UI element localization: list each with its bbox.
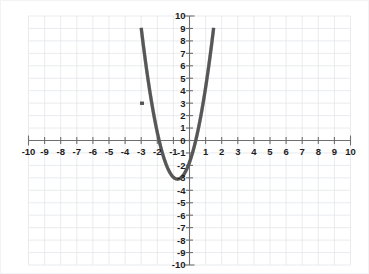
y-tick-label: -2 bbox=[177, 160, 185, 171]
x-tick-label: -10 bbox=[22, 146, 36, 157]
y-tick-label: 7 bbox=[180, 48, 185, 59]
x-tick-label: -9 bbox=[40, 146, 48, 157]
x-axis-tick-labels: -10-9-8-7-6-5-4-3-2-112345678910 bbox=[22, 146, 356, 157]
y-tick-label: 10 bbox=[175, 10, 186, 21]
x-tick-label: -8 bbox=[56, 146, 64, 157]
y-tick-label: -1 bbox=[177, 147, 186, 158]
y-tick-label: 6 bbox=[180, 60, 185, 71]
x-tick-label: -4 bbox=[121, 146, 130, 157]
y-tick-label: -5 bbox=[177, 197, 186, 208]
y-tick-label: 9 bbox=[180, 23, 185, 34]
x-tick-label: -2 bbox=[153, 146, 161, 157]
x-tick-label: -7 bbox=[73, 146, 81, 157]
y-tick-label: -9 bbox=[177, 247, 185, 258]
y-tick-label: 1 bbox=[180, 122, 186, 133]
x-tick-label: 3 bbox=[235, 146, 240, 157]
x-tick-label: 1 bbox=[203, 146, 209, 157]
parabola-chart: -10-9-8-7-6-5-4-3-2-112345678910 -10-9-8… bbox=[0, 0, 369, 274]
x-tick-label: -6 bbox=[89, 146, 97, 157]
x-tick-label: 6 bbox=[283, 146, 288, 157]
x-tick-label: 7 bbox=[300, 146, 305, 157]
x-tick-label: 9 bbox=[332, 146, 337, 157]
y-tick-label: 4 bbox=[180, 85, 186, 96]
x-tick-label: 4 bbox=[251, 146, 257, 157]
y-tick-label: -4 bbox=[177, 185, 186, 196]
y-tick-label: -8 bbox=[177, 235, 185, 246]
x-tick-label: -5 bbox=[105, 146, 114, 157]
curve-kink-artifact bbox=[140, 102, 144, 105]
y-tick-label: 3 bbox=[180, 98, 185, 109]
plot-frame: -10-9-8-7-6-5-4-3-2-112345678910 -10-9-8… bbox=[0, 0, 369, 274]
x-tick-label: 5 bbox=[267, 146, 273, 157]
graph-canvas: -10-9-8-7-6-5-4-3-2-112345678910 -10-9-8… bbox=[0, 0, 369, 274]
y-tick-label: -3 bbox=[177, 172, 185, 183]
y-tick-label: 2 bbox=[180, 110, 185, 121]
y-tick-label: 0 bbox=[180, 135, 185, 146]
x-tick-label: 10 bbox=[345, 146, 356, 157]
y-tick-label: -6 bbox=[177, 210, 185, 221]
y-tick-label: 5 bbox=[180, 73, 186, 84]
y-tick-label: -7 bbox=[177, 222, 185, 233]
x-tick-label: -3 bbox=[137, 146, 145, 157]
y-tick-label: 8 bbox=[180, 35, 185, 46]
y-tick-label: -10 bbox=[172, 259, 186, 270]
x-tick-label: 2 bbox=[219, 146, 224, 157]
x-tick-label: 8 bbox=[316, 146, 321, 157]
